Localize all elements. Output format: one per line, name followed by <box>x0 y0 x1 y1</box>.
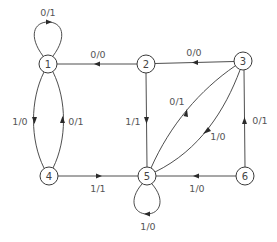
arrowhead-icon <box>192 60 198 65</box>
state-node-1: 1 <box>39 55 57 73</box>
edge-4-to-5: 1/1 <box>58 174 138 194</box>
edge-5-to-5: 1/0 <box>134 184 160 232</box>
state-node-5: 5 <box>138 167 156 185</box>
state-diagram: 0/1 0/0 0/0 1/0 0/1 <box>0 0 277 242</box>
edge-label-3-2: 0/0 <box>186 47 201 58</box>
state-label-1: 1 <box>45 59 51 70</box>
edge-5-to-3: 0/1 <box>151 66 235 168</box>
edge-1-to-4: 1/0 <box>12 72 44 168</box>
diagram-svg: 0/1 0/0 0/0 1/0 0/1 <box>0 0 277 242</box>
state-label-6: 6 <box>242 171 248 182</box>
edge-6-to-3: 0/1 <box>242 70 268 167</box>
arrowhead-icon <box>144 212 150 217</box>
arrowhead-icon <box>94 62 100 67</box>
state-label-2: 2 <box>143 59 149 70</box>
edge-3-to-5: 1/0 <box>155 70 240 172</box>
edge-label-3-5: 1/0 <box>210 131 225 142</box>
state-node-2: 2 <box>137 55 155 73</box>
edge-label-5-3: 0/1 <box>169 96 184 107</box>
arrowhead-icon <box>96 174 102 179</box>
edge-label-4-1: 0/1 <box>68 116 83 127</box>
edge-6-to-5: 1/0 <box>156 174 236 194</box>
edge-label-1-4: 1/0 <box>12 116 27 127</box>
arrowhead-icon <box>144 117 149 124</box>
edge-label-2-1: 0/0 <box>90 49 105 60</box>
edge-4-to-1: 0/1 <box>53 72 84 168</box>
edge-label-4-5: 1/1 <box>90 183 105 194</box>
state-node-4: 4 <box>40 167 58 185</box>
edge-label-1-1: 0/1 <box>40 7 55 18</box>
state-label-5: 5 <box>144 171 150 182</box>
arrowhead-icon <box>46 20 52 25</box>
edge-1-to-1: 0/1 <box>34 7 62 57</box>
state-label-4: 4 <box>46 171 52 182</box>
edge-label-6-3: 0/1 <box>252 115 267 126</box>
arrowhead-icon <box>242 117 247 124</box>
edge-3-to-2: 0/0 <box>155 47 234 66</box>
arrowhead-icon <box>60 116 65 123</box>
arrowhead-icon <box>193 174 199 179</box>
edge-label-6-5: 1/0 <box>189 183 204 194</box>
state-node-6: 6 <box>236 167 254 185</box>
edge-label-2-5: 1/1 <box>125 116 140 127</box>
state-node-3: 3 <box>234 52 252 70</box>
edge-label-5-5: 1/0 <box>140 221 155 232</box>
edge-2-to-1: 0/0 <box>57 49 137 67</box>
state-label-3: 3 <box>240 56 246 67</box>
edge-2-to-5: 1/1 <box>125 73 149 167</box>
arrowhead-icon <box>32 117 37 124</box>
